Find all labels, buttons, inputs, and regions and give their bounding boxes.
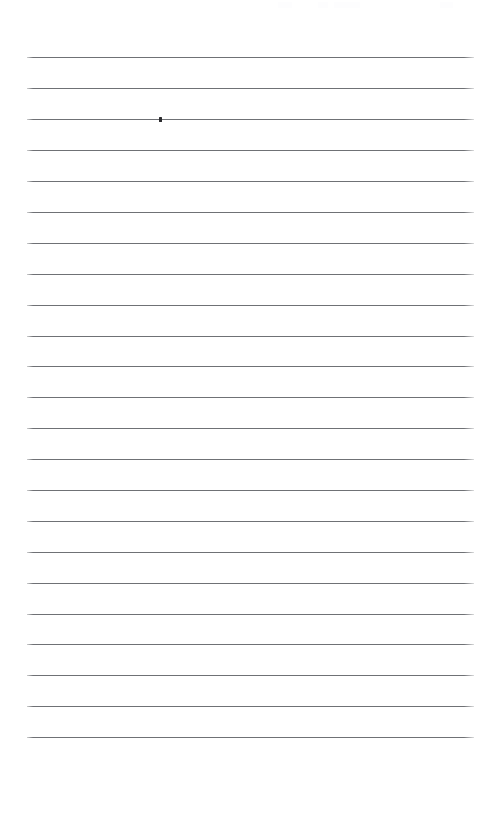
ruled-line: [27, 428, 474, 429]
ink-mark: [159, 117, 162, 122]
ruled-line: [27, 644, 474, 645]
ruled-line: [27, 119, 474, 120]
ruled-line: [27, 305, 474, 306]
ruled-line: [27, 181, 474, 182]
ruled-line: [27, 706, 474, 707]
ruled-line: [27, 274, 474, 275]
ruled-line: [27, 212, 474, 213]
ruled-line: [27, 490, 474, 491]
ruled-line: [27, 243, 474, 244]
ruled-line: [27, 737, 474, 738]
ruled-lines-group: [0, 0, 495, 818]
ruled-line: [27, 397, 474, 398]
ruled-line: [27, 366, 474, 367]
ruled-line: [27, 614, 474, 615]
ruled-line: [27, 88, 474, 89]
ruled-line: [27, 552, 474, 553]
ruled-line: [27, 459, 474, 460]
ruled-line: [27, 583, 474, 584]
ruled-line: [27, 521, 474, 522]
ruled-line: [27, 57, 474, 58]
ruled-page: [0, 0, 495, 818]
ruled-line: [27, 150, 474, 151]
ruled-line: [27, 675, 474, 676]
ruled-line: [27, 336, 474, 337]
